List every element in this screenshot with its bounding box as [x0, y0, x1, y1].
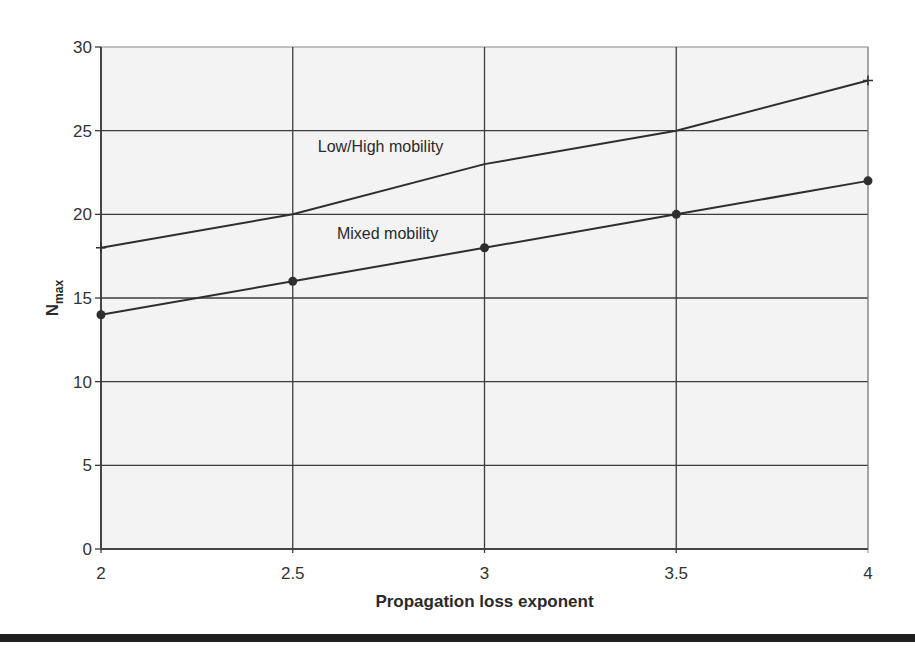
data-point-marker	[97, 310, 106, 319]
data-point-marker	[672, 210, 681, 219]
x-axis-title: Propagation loss exponent	[375, 592, 594, 611]
x-tick-label: 3	[480, 564, 489, 583]
y-tick-label: 20	[73, 205, 92, 224]
x-tick-label: 4	[863, 564, 872, 583]
series-label: Mixed mobility	[337, 225, 438, 242]
bottom-divider-rule	[0, 634, 915, 642]
series-label: Low/High mobility	[318, 138, 443, 155]
y-axis-title-main: N	[43, 304, 62, 316]
data-point-marker	[864, 176, 873, 185]
y-axis-title: Nmax	[43, 280, 66, 317]
y-tick-label: 0	[83, 540, 92, 559]
line-chart: 05101520253022.533.54 Low/High mobilityM…	[0, 0, 915, 652]
y-tick-label: 25	[73, 122, 92, 141]
y-tick-label: 10	[73, 373, 92, 392]
y-tick-label: 15	[73, 289, 92, 308]
x-tick-label: 2	[96, 564, 105, 583]
x-tick-label: 3.5	[664, 564, 688, 583]
y-tick-label: 5	[83, 456, 92, 475]
x-tick-label: 2.5	[281, 564, 305, 583]
y-axis-title-subscript: max	[52, 280, 66, 304]
y-tick-label: 30	[73, 38, 92, 57]
data-point-marker	[480, 243, 489, 252]
data-point-marker	[288, 277, 297, 286]
